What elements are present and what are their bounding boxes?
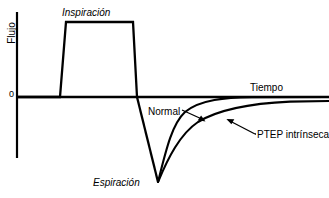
intrinsic-peep-leader-arrow [226, 119, 255, 134]
normal-curve-label: Normal [148, 107, 180, 117]
y-axis-label: Flujo [7, 10, 17, 56]
flow-time-waveform-figure: Flujo 0 Inspiración Tiempo Normal PTEP i… [0, 0, 329, 198]
inspiration-label: Inspiración [62, 8, 110, 18]
expiration-label: Espiración [93, 178, 140, 188]
waveform-canvas [0, 0, 329, 198]
x-axis-label: Tiempo [250, 83, 283, 93]
zero-axis-tick-label: 0 [9, 90, 14, 99]
inspiratory-flow-curve [17, 22, 137, 97]
normal-leader-arrow [182, 110, 206, 121]
intrinsic-peep-curve-label: PTEP intrínseca [257, 130, 329, 140]
